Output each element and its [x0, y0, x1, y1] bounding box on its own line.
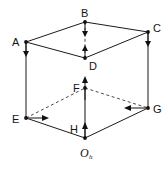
arrow-D-up [82, 45, 88, 58]
vertex-dot-A [24, 40, 28, 44]
vertex-label-E: E [12, 113, 19, 125]
direction-arrows [23, 22, 151, 138]
vertex-label-G: G [153, 103, 162, 115]
vertex-label-F: F [73, 82, 80, 94]
cube-vertex-dots [24, 20, 150, 140]
arrow-B-down [82, 22, 88, 37]
arrow-A-down [23, 42, 29, 57]
edge-D-C [85, 32, 148, 58]
edge-F-G [85, 88, 148, 108]
vertex-label-B: B [81, 7, 88, 19]
edge-A-D [26, 42, 85, 58]
arrow-C-down [145, 32, 151, 47]
vertex-label-A: A [12, 36, 20, 48]
vertex-dot-B [83, 20, 87, 24]
vertex-dot-E [24, 116, 28, 120]
vertex-label-H: H [70, 123, 78, 135]
edge-B-C [85, 22, 148, 32]
vertex-label-D: D [89, 60, 97, 72]
cube-edges [26, 22, 148, 138]
vertex-dot-G [146, 106, 150, 110]
vertex-dot-D [83, 56, 87, 60]
arrow-E-right [26, 115, 49, 121]
vertex-label-Oh: O [80, 146, 89, 160]
cube-diagram: A B C D E F G H O h [0, 0, 168, 170]
vertex-label-Oh-subscript: h [89, 153, 93, 161]
cube-diagram-canvas: A B C D E F G H O h [0, 0, 168, 170]
vertex-dot-F [83, 86, 87, 90]
vertex-dot-C [146, 30, 150, 34]
vertex-dot-Oh [83, 136, 87, 140]
vertex-label-C: C [153, 22, 161, 34]
edge-A-B [26, 22, 85, 42]
arrow-H-up [82, 122, 88, 138]
edge-H-G [85, 108, 148, 138]
